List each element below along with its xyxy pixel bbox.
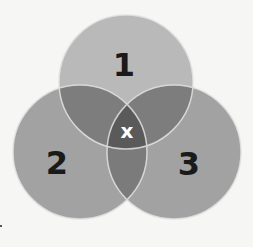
set-1-label: 1: [113, 46, 135, 84]
set-3-label: 3: [178, 145, 200, 183]
venn-diagram: 1 2 3 x: [0, 0, 253, 247]
speck: [0, 225, 2, 227]
set-2-label: 2: [46, 144, 68, 182]
intersection-label: x: [121, 119, 134, 143]
